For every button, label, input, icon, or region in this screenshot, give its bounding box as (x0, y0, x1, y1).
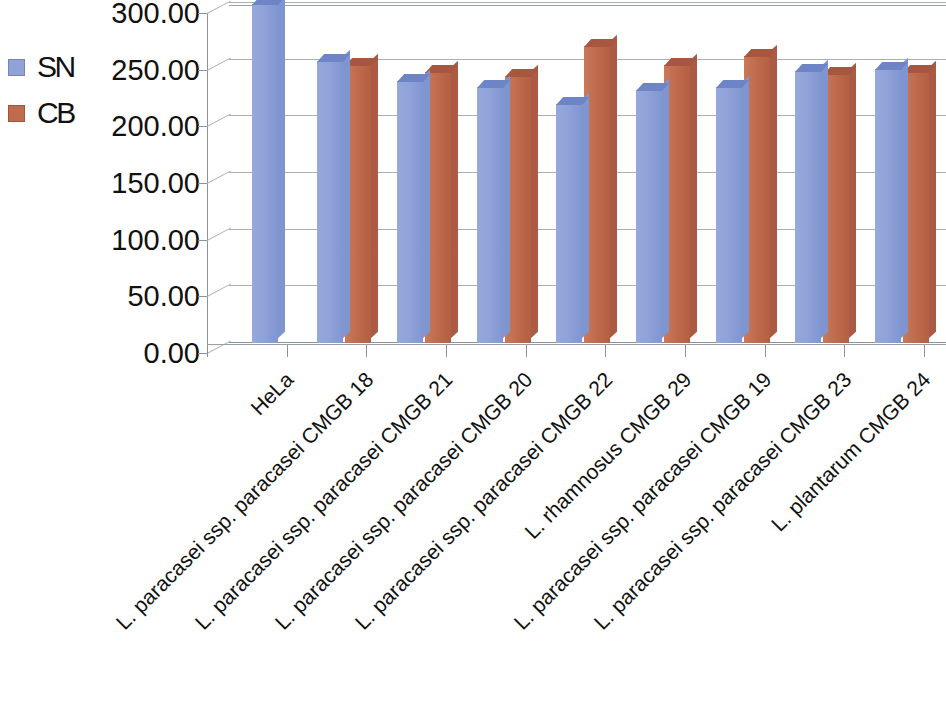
bar-side-facet (689, 54, 697, 339)
category-tick-4 (526, 345, 527, 357)
bar-face (875, 69, 901, 343)
y-tick-label-50: 50.00 (127, 282, 200, 311)
bar-group-1 (309, 5, 389, 343)
legend-entry-sn[interactable]: SN (8, 44, 103, 90)
bar-group-5 (627, 5, 707, 343)
depth-connector-150 (207, 170, 231, 184)
bar-group-7 (787, 5, 867, 343)
bar-sn-8[interactable] (875, 69, 901, 343)
category-tick-2 (366, 345, 367, 357)
category-tick-5 (605, 345, 606, 357)
depth-connector-50 (207, 284, 231, 298)
bar-face (636, 90, 662, 343)
legend-entry-cb[interactable]: CB (8, 90, 103, 136)
bar-sn-4[interactable] (556, 104, 582, 343)
bar-side-facet (530, 64, 538, 339)
bar-side-facet (661, 79, 669, 339)
bar-face (795, 71, 821, 343)
category-tick-1 (287, 345, 288, 357)
depth-connector-100 (207, 227, 231, 241)
chart-legend: SNCB (8, 44, 103, 136)
y-tick-label-250: 250.00 (111, 55, 200, 84)
category-tick-0 (207, 345, 208, 357)
category-axis-line (207, 344, 946, 345)
bar-side-facet (609, 35, 617, 339)
category-tick-7 (765, 345, 766, 357)
x-axis-labels: HeLaL. paracasei ssp. paracasei CMGB 18L… (0, 362, 946, 707)
bar-face (252, 4, 278, 343)
bar-side-facet (928, 61, 936, 339)
bar-side-facet (370, 54, 378, 339)
bar-sn-3[interactable] (477, 87, 503, 343)
bar-sn-0[interactable] (252, 4, 278, 343)
bar-chart: SNCB 300.00250.00200.00150.00100.0050.00… (0, 0, 946, 707)
bar-face (317, 61, 343, 343)
legend-label-sn: SN (37, 50, 74, 84)
bar-sn-7[interactable] (795, 71, 821, 343)
y-tick-label-300: 300.00 (111, 0, 200, 28)
bar-sn-5[interactable] (636, 90, 662, 343)
bar-side-facet (277, 0, 285, 339)
bar-side-facet (900, 58, 908, 339)
bar-side-facet (422, 70, 430, 339)
bar-group-2 (388, 5, 468, 343)
bar-sn-6[interactable] (716, 87, 742, 343)
bar-group-8 (866, 5, 946, 343)
depth-connector-200 (207, 114, 231, 128)
category-tick-3 (446, 345, 447, 357)
bar-sn-1[interactable] (317, 61, 343, 343)
legend-label-cb: CB (37, 96, 74, 130)
bar-face (397, 81, 423, 343)
bar-group-3 (468, 5, 548, 343)
bar-side-facet (769, 45, 777, 339)
bar-face (716, 87, 742, 343)
y-tick-label-100: 100.00 (111, 225, 200, 254)
bar-side-facet (848, 63, 856, 339)
value-axis-line (207, 13, 208, 355)
category-tick-9 (924, 345, 925, 357)
category-tick-8 (844, 345, 845, 357)
plot-area (207, 5, 946, 355)
bar-side-facet (502, 76, 510, 339)
depth-connector-250 (207, 57, 231, 71)
legend-swatch-cb (8, 105, 25, 122)
bar-side-facet (741, 76, 749, 339)
bar-side-facet (820, 60, 828, 339)
depth-connector-0 (207, 340, 231, 354)
bar-sn-2[interactable] (397, 81, 423, 343)
category-tick-6 (685, 345, 686, 357)
bar-group-0 (229, 5, 309, 343)
bar-face (556, 104, 582, 343)
bar-side-facet (342, 50, 350, 339)
bar-group-4 (548, 5, 628, 343)
y-axis-labels: 300.00250.00200.00150.00100.0050.000.00 (96, 0, 200, 370)
legend-swatch-sn (8, 59, 25, 76)
gridline-300 (229, 2, 946, 3)
y-tick-label-150: 150.00 (111, 169, 200, 198)
bars-layer (229, 5, 946, 343)
bar-side-facet (581, 93, 589, 339)
depth-connector-300 (207, 0, 231, 14)
bar-side-facet (450, 61, 458, 339)
bar-face (477, 87, 503, 343)
bar-group-6 (707, 5, 787, 343)
y-tick-label-200: 200.00 (111, 112, 200, 141)
